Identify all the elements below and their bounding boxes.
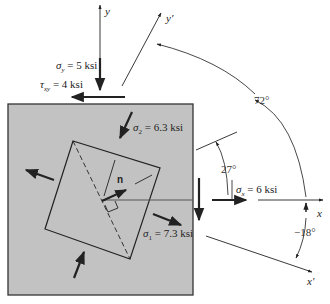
sigma-y-label: σy = 5 ksi [56,60,97,74]
normal-vector-label: n [117,175,123,185]
angle-minus-18-label: −18° [294,227,316,238]
sigma-1-label: σ1 = 7.3 ksi [143,228,193,242]
tau-xy-label: τxy = 4 ksi [40,79,83,93]
x-prime-axis [206,236,312,272]
sigma-2-label: σ2 = 6.3 ksi [133,122,183,136]
angle-27-label: 27° [221,164,236,175]
x-prime-axis-label: x′ [307,276,314,287]
stress-diagram [0,0,330,304]
y-prime-axis-label: y′ [166,13,173,24]
angle-72-label: 72° [254,95,269,106]
arc-72-degrees-upper [157,44,255,94]
y-axis-label: y [105,6,110,17]
x-axis-label: x [317,208,322,219]
y-prime-axis [122,13,161,86]
principal-plane-line [196,132,237,150]
arc-minus-18-degrees [296,218,306,258]
sigma-x-label: σx = 6 ksi [236,184,277,198]
